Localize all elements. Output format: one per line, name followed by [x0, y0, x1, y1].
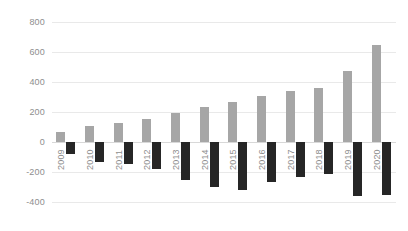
- x-axis-tick-label: 2019: [344, 149, 353, 170]
- y-axis-tick-label: -200: [26, 168, 45, 177]
- x-axis-tick-label: 2015: [229, 149, 238, 170]
- x-axis-tick-label: 2013: [172, 149, 181, 170]
- gridline: [52, 202, 396, 203]
- x-axis-tick-label: 2020: [373, 149, 382, 170]
- x-axis-tick-label: 2016: [258, 149, 267, 170]
- y-axis-tick-label: 0: [40, 138, 45, 147]
- x-axis-tick-label: 2018: [315, 149, 324, 170]
- y-axis-tick-label: 200: [29, 108, 45, 117]
- x-axis-tick-label: 2014: [201, 149, 210, 170]
- x-axis-tick-label: 2009: [57, 149, 66, 170]
- x-axis-labels: 2009201020112012201320142015201620172018…: [52, 22, 396, 202]
- y-axis-tick-label: 800: [29, 18, 45, 27]
- bar-chart: 8006004002000-200-400 200920102011201220…: [0, 0, 408, 231]
- x-axis-tick-label: 2010: [86, 149, 95, 170]
- y-axis-tick-label: 600: [29, 48, 45, 57]
- plot-area: 8006004002000-200-400 200920102011201220…: [52, 22, 396, 202]
- y-axis-tick-label: 400: [29, 78, 45, 87]
- y-axis-tick-label: -400: [26, 198, 45, 207]
- x-axis-tick-label: 2017: [287, 149, 296, 170]
- x-axis-tick-label: 2011: [115, 150, 124, 170]
- x-axis-tick-label: 2012: [143, 149, 152, 170]
